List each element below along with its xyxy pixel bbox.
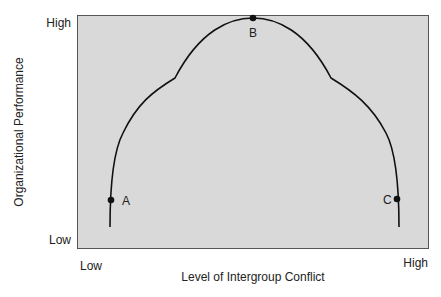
- y-axis-title: Organizational Performance: [12, 57, 26, 207]
- point-a-label: A: [122, 194, 130, 208]
- y-tick-high: High: [46, 16, 71, 30]
- point-c-marker: [394, 196, 401, 203]
- x-axis-title: Level of Intergroup Conflict: [181, 270, 325, 284]
- point-b-marker: [250, 15, 257, 22]
- point-c-label: C: [383, 193, 392, 207]
- y-tick-low: Low: [49, 233, 71, 247]
- point-a-marker: [108, 197, 115, 204]
- plot-area: [78, 16, 429, 249]
- chart: A B C High Low Low High Level of Intergr…: [0, 0, 441, 297]
- x-tick-high: High: [403, 256, 428, 270]
- x-tick-low: Low: [80, 259, 102, 273]
- point-b-label: B: [249, 26, 257, 40]
